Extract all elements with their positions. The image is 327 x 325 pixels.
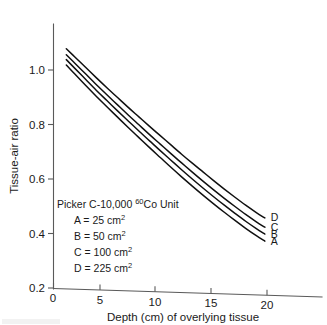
y-tick-label-0.2: 0.2: [29, 282, 45, 294]
x-tick-label-20: 20: [261, 299, 274, 311]
x-tick-label-15: 15: [205, 297, 218, 309]
y-tick-marks: [48, 70, 54, 288]
legend-annotation-block: Picker C-10,000 60Co Unit A = 25 cm2 B =…: [57, 197, 179, 275]
legend-entry-D: D = 225 cm2: [74, 261, 132, 275]
legend-entry-D-exponent: 2: [128, 261, 132, 270]
y-tick-label-0.6: 0.6: [29, 173, 45, 185]
legend-title-suffix: Co Unit: [144, 198, 179, 210]
curve-end-label-A: A: [271, 235, 278, 247]
legend-title-superscript: 60: [135, 197, 143, 206]
legend-entry-A: A = 25 cm2: [74, 213, 125, 227]
legend-entry-B: B = 50 cm2: [74, 229, 126, 243]
legend-title: Picker C-10,000 60Co Unit: [57, 197, 179, 211]
y-tick-label-0.4: 0.4: [29, 228, 46, 240]
x-tick-label-0: 0: [50, 292, 56, 304]
x-axis-title: Depth (cm) of overlying tissue: [107, 311, 259, 323]
chart-figure: 1.0 0.8 0.6 0.4 0.2 0 5 10 15 20 Depth (…: [0, 0, 327, 325]
x-tick-label-10: 10: [149, 296, 162, 308]
page-edge-artifact: [2, 319, 60, 324]
legend-entry-C-text: C = 100 cm: [74, 246, 128, 258]
legend-entry-D-text: D = 225 cm: [74, 262, 128, 274]
y-tick-label-1.0: 1.0: [29, 64, 45, 76]
curve-end-labels: D C B A: [271, 211, 279, 246]
tissue-air-ratio-chart: 1.0 0.8 0.6 0.4 0.2 0 5 10 15 20 Depth (…: [0, 0, 327, 325]
x-axis-line: [54, 289, 323, 298]
x-tick-label-5: 5: [97, 294, 103, 306]
y-tick-label-0.8: 0.8: [29, 119, 45, 131]
legend-entry-C: C = 100 cm2: [74, 245, 132, 259]
y-tick-labels: 1.0 0.8 0.6 0.4 0.2: [29, 64, 46, 294]
legend-entry-A-text: A = 25 cm: [74, 214, 121, 226]
y-axis-title: Tissue-air ratio: [8, 118, 20, 194]
curve-D: [66, 49, 265, 218]
curves-group: [66, 49, 265, 241]
legend-entry-A-exponent: 2: [121, 213, 125, 222]
legend-title-prefix: Picker C-10,000: [57, 198, 135, 210]
legend-entry-B-text: B = 50 cm: [74, 230, 122, 242]
legend-entry-B-exponent: 2: [122, 229, 126, 238]
legend-entry-C-exponent: 2: [128, 245, 132, 254]
